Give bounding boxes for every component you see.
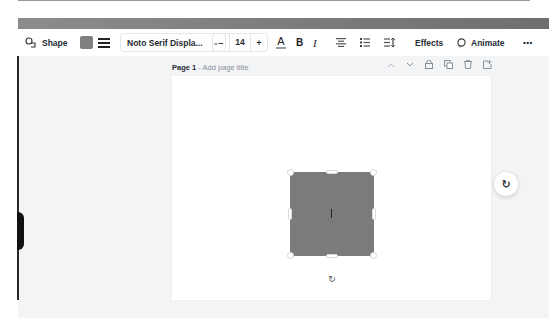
list-button[interactable] (360, 29, 370, 56)
align-button[interactable] (336, 29, 346, 56)
decrease-font-size-button[interactable]: − (213, 38, 229, 48)
page-title-input[interactable]: Add page title (202, 63, 248, 72)
text-cursor (331, 209, 332, 218)
resize-handle-bottom-right[interactable] (370, 252, 377, 259)
animate-icon (456, 38, 466, 48)
selected-square-shape[interactable] (290, 172, 374, 256)
text-color-button[interactable]: A (276, 29, 286, 56)
font-size-control: − 14 + (212, 29, 268, 56)
text-color-icon: A (276, 36, 286, 49)
lock-page-button[interactable] (425, 60, 433, 71)
duplicate-icon (444, 60, 453, 69)
collapse-panel-handle[interactable] (17, 212, 24, 250)
animate-button[interactable]: Animate (456, 29, 505, 56)
resize-handle-bottom[interactable] (326, 254, 338, 258)
duplicate-page-button[interactable] (444, 60, 453, 71)
add-page-button[interactable] (483, 60, 492, 71)
shape-button[interactable]: Shape (25, 29, 68, 56)
page-title: Page 1 - Add page title (172, 63, 248, 72)
effects-button[interactable]: Effects (415, 29, 443, 56)
lock-icon (425, 60, 433, 69)
top-divider (18, 0, 530, 1)
list-icon (360, 38, 370, 47)
resize-handle-top[interactable] (326, 170, 338, 174)
line-spacing-icon (384, 38, 395, 47)
more-options-button[interactable]: ••• (523, 29, 533, 56)
border-style-button[interactable] (98, 29, 110, 56)
effects-label: Effects (415, 38, 443, 48)
shape-icon (25, 37, 36, 48)
font-family-value: Noto Serif Displa... (127, 38, 203, 48)
canva-editor: Shape Noto Serif Displa... ⌄ − 14 + (0, 0, 549, 318)
resize-handle-right[interactable] (372, 208, 376, 220)
border-style-icon (98, 38, 110, 48)
rotate-handle[interactable]: ↻ (325, 272, 339, 286)
trash-icon (464, 60, 472, 69)
font-size-input[interactable]: 14 (229, 34, 251, 51)
editor-toolbar: Shape Noto Serif Displa... ⌄ − 14 + (18, 29, 549, 56)
side-panel-edge (17, 56, 19, 300)
resize-handle-top-right[interactable] (370, 169, 377, 176)
move-page-down-button[interactable] (406, 61, 414, 70)
resize-handle-left[interactable] (288, 208, 292, 220)
move-page-up-button[interactable] (387, 61, 395, 70)
bold-button[interactable]: B (296, 29, 303, 56)
resize-handle-bottom-left[interactable] (287, 252, 294, 259)
chevron-down-icon (406, 62, 414, 68)
refresh-icon: ↻ (501, 178, 510, 191)
refresh-button[interactable]: ↻ (494, 172, 518, 196)
increase-font-size-button[interactable]: + (251, 38, 267, 48)
page-number: Page 1 (172, 63, 196, 72)
delete-page-button[interactable] (464, 60, 472, 71)
add-page-icon (483, 60, 492, 69)
bold-icon: B (296, 37, 303, 48)
page-header: Page 1 - Add page title (172, 60, 492, 74)
page-actions (387, 60, 492, 71)
align-center-icon (336, 38, 346, 47)
rotate-icon: ↻ (328, 274, 336, 284)
more-icon: ••• (523, 38, 533, 47)
font-family-select[interactable]: Noto Serif Displa... ⌄ (120, 29, 226, 56)
fill-color-swatch (80, 36, 93, 49)
fill-color-button[interactable] (80, 29, 93, 56)
italic-icon: I (313, 37, 317, 49)
resize-handle-top-left[interactable] (287, 169, 294, 176)
chevron-up-icon (387, 62, 395, 68)
header-bar (18, 18, 549, 29)
italic-button[interactable]: I (313, 29, 317, 56)
spacing-button[interactable] (384, 29, 395, 56)
animate-label: Animate (471, 38, 505, 48)
shape-label: Shape (42, 38, 68, 48)
